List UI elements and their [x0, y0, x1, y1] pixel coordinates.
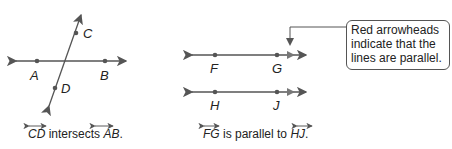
caption-2: FG is parallel to HJ.	[203, 127, 308, 141]
point-label-j: J	[272, 98, 280, 113]
point-label-c: C	[83, 26, 93, 41]
point-label-h: H	[210, 98, 220, 113]
point-label-d: D	[61, 81, 70, 96]
point-label-g: G	[272, 61, 282, 76]
point-label-f: F	[210, 61, 219, 76]
point-label-b: B	[100, 68, 109, 83]
caption-1: CD intersects AB.	[28, 127, 123, 141]
figure-intersecting-lines: A B C D CD intersects AB.	[16, 15, 126, 141]
parallel-arrowhead-icon	[287, 88, 295, 96]
pointer-arrow-icon	[286, 38, 294, 46]
parallel-arrowhead-icon	[287, 51, 295, 59]
callout-note: Red arrowheads indicate that the lines a…	[346, 20, 450, 70]
point-label-a: A	[29, 68, 39, 83]
figure-parallel-lines: F G H J FG is parallel to HJ.	[192, 27, 346, 141]
